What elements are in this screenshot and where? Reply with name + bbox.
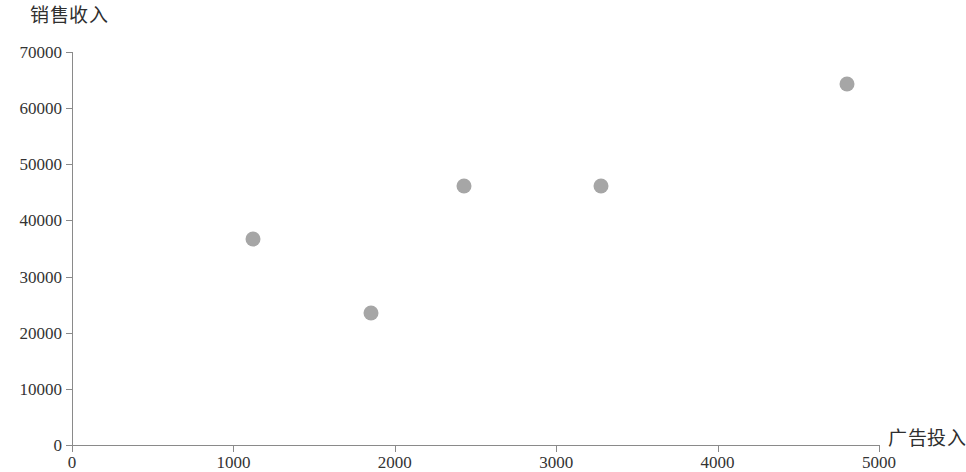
- y-tick-label: 20000: [20, 324, 63, 341]
- data-point: [594, 178, 609, 193]
- y-tick-label: 50000: [20, 156, 63, 173]
- x-tick-mark: [556, 445, 557, 452]
- x-tick-label: 5000: [862, 454, 896, 471]
- y-tick-label: 0: [54, 437, 63, 454]
- plot-area: [72, 52, 879, 446]
- y-tick-label: 10000: [20, 380, 63, 397]
- data-point: [839, 77, 854, 92]
- x-tick-label: 1000: [216, 454, 250, 471]
- x-tick-mark: [233, 445, 234, 452]
- x-axis-title: 广告投入: [888, 429, 966, 448]
- x-tick-mark: [718, 445, 719, 452]
- x-tick-mark: [879, 445, 880, 452]
- x-tick-mark: [72, 445, 73, 452]
- y-tick-label: 70000: [20, 44, 63, 61]
- data-point: [245, 231, 260, 246]
- y-tick-label: 40000: [20, 212, 63, 229]
- x-tick-mark: [395, 445, 396, 452]
- y-axis-title: 销售收入: [30, 6, 108, 25]
- x-tick-label: 3000: [539, 454, 573, 471]
- x-tick-label: 0: [68, 454, 77, 471]
- data-point: [363, 305, 378, 320]
- x-tick-label: 2000: [378, 454, 412, 471]
- x-tick-label: 4000: [701, 454, 735, 471]
- y-tick-label: 30000: [20, 268, 63, 285]
- data-point: [457, 178, 472, 193]
- y-tick-label: 60000: [20, 100, 63, 117]
